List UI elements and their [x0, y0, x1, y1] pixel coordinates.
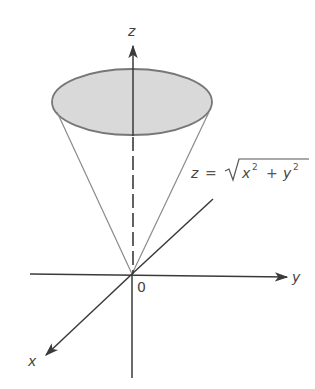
cone-top-disk — [52, 69, 212, 135]
x-axis-front — [46, 274, 132, 355]
y-axis-label: y — [291, 269, 301, 285]
equation-plus: + — [266, 165, 278, 181]
z-axis-label: z — [127, 23, 136, 39]
cone-equation: z = x 2 + y 2 — [190, 159, 309, 181]
equation-equals: = — [205, 165, 217, 181]
y-axis — [30, 274, 287, 277]
equation-y-exponent: 2 — [293, 162, 299, 172]
equation-y: y — [282, 165, 292, 181]
cone-diagram: z y x 0 z = x 2 + y 2 — [0, 0, 315, 389]
cone-right-edge — [132, 112, 209, 274]
equation-lhs: z — [190, 165, 199, 181]
x-axis-back — [132, 199, 213, 274]
origin-label: 0 — [137, 279, 146, 295]
cone-left-edge — [57, 112, 132, 274]
x-axis-label: x — [27, 353, 37, 369]
equation-x-exponent: 2 — [252, 162, 258, 172]
equation-x: x — [241, 165, 251, 181]
